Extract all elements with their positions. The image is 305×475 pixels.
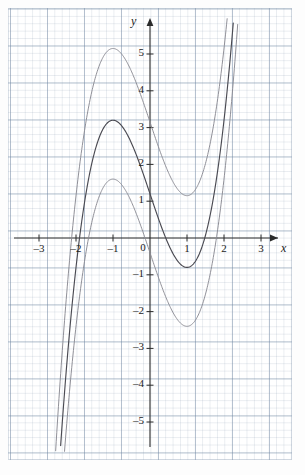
chart-page: –3–2–1012354321–1–2–3–4–5 y x (0, 0, 305, 475)
curve-cubic-middle (61, 23, 234, 445)
x-tick-label: 2 (213, 242, 235, 254)
x-tick-label: 3 (250, 242, 272, 254)
plot-canvas (0, 0, 305, 475)
axes-group (14, 18, 278, 447)
y-axis-arrowhead (147, 18, 154, 26)
x-tick-label: –1 (102, 242, 124, 254)
y-axis-label: y (131, 14, 136, 29)
y-tick-label: 5 (122, 46, 144, 58)
y-tick-label: 2 (122, 156, 144, 168)
x-tick-label: –2 (65, 242, 87, 254)
curves-group (56, 19, 238, 452)
y-tick-label: 1 (122, 193, 144, 205)
x-tick-label: 1 (176, 242, 198, 254)
y-tick-label: –4 (122, 377, 144, 389)
x-tick-label: 0 (132, 241, 154, 253)
y-tick-label: –1 (122, 267, 144, 279)
y-tick-label: 3 (122, 120, 144, 132)
y-tick-label: 4 (122, 83, 144, 95)
x-axis-label: x (281, 241, 286, 256)
y-tick-label: –2 (122, 304, 144, 316)
x-tick-label: –3 (28, 242, 50, 254)
y-tick-label: –3 (122, 340, 144, 352)
y-tick-label: –5 (122, 414, 144, 426)
x-axis-arrowhead (270, 235, 278, 242)
